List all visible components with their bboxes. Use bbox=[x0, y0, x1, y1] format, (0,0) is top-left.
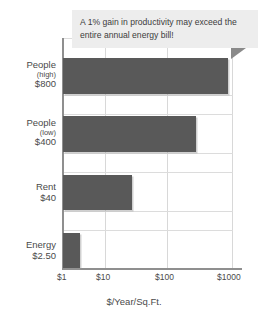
category-value: $2.50 bbox=[0, 251, 56, 262]
x-tick-label-1000: $1000 bbox=[217, 272, 241, 282]
gridline-horizontal bbox=[62, 211, 233, 212]
category-label-people-low: People (low) $400 bbox=[0, 118, 56, 148]
bar-people-high bbox=[63, 58, 228, 94]
bar-energy bbox=[63, 233, 80, 268]
page-fold-icon bbox=[231, 48, 246, 59]
x-axis-line bbox=[62, 268, 242, 270]
callout-text: A 1% gain in productivity may exceed the… bbox=[80, 16, 250, 43]
category-value: $40 bbox=[0, 193, 56, 204]
gridline-horizontal bbox=[62, 153, 233, 154]
callout-box: A 1% gain in productivity may exceed the… bbox=[72, 10, 258, 48]
gridline-horizontal bbox=[62, 114, 233, 115]
category-value: $400 bbox=[0, 137, 56, 148]
bar-rent bbox=[63, 175, 132, 210]
category-value: $800 bbox=[0, 79, 56, 90]
x-tick-label-1: $1 bbox=[57, 272, 66, 282]
category-label-energy: Energy $2.50 bbox=[0, 240, 56, 261]
bar-chart: People (high) $800 People (low) $400 Ren… bbox=[0, 0, 268, 330]
x-tick-label-10: $10 bbox=[96, 272, 110, 282]
x-axis-title: $/Year/Sq.Ft. bbox=[0, 296, 268, 307]
gridline-horizontal bbox=[62, 230, 233, 231]
category-label-rent: Rent $40 bbox=[0, 182, 56, 203]
x-tick-label-100: $100 bbox=[155, 272, 174, 282]
gridline-horizontal bbox=[62, 172, 233, 173]
category-label-people-high: People (high) $800 bbox=[0, 60, 56, 90]
gridline-horizontal bbox=[62, 95, 233, 96]
bar-people-low bbox=[63, 116, 196, 152]
